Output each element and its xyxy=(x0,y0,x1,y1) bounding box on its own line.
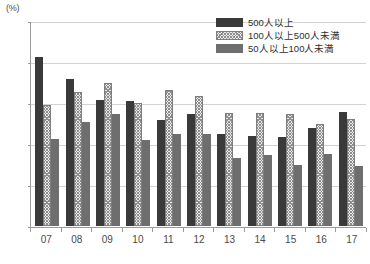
x-axis-tick-mark xyxy=(213,228,214,232)
legend: 500人以上100人以上500人未満50人以上100人未満 xyxy=(216,17,340,54)
x-axis-tick-mark xyxy=(152,228,153,232)
bar-12-series-1 xyxy=(187,114,195,226)
bar-group-09 xyxy=(93,22,123,226)
x-axis-tick-label-13: 13 xyxy=(214,234,245,245)
bar-15-series-1 xyxy=(278,137,286,226)
x-axis-tick-mark xyxy=(91,228,92,232)
x-axis-tick-mark xyxy=(274,228,275,232)
x-axis-tick-label-12: 12 xyxy=(184,234,215,245)
x-axis-tick-label-17: 17 xyxy=(336,234,367,245)
legend-label-2: 100人以上500人未満 xyxy=(248,30,340,41)
bar-14-series-1 xyxy=(248,136,256,226)
bar-group-11 xyxy=(153,22,183,226)
bar-08-series-3 xyxy=(82,122,90,226)
bar-11-series-2 xyxy=(165,90,173,226)
legend-swatch-3 xyxy=(216,44,243,53)
bar-10-series-1 xyxy=(126,101,134,226)
bar-chart: (%) 657075808590 0708091011121314151617 … xyxy=(0,0,370,264)
x-axis-tick-label-14: 14 xyxy=(245,234,276,245)
legend-swatch-2 xyxy=(216,31,243,40)
x-axis-tick-mark xyxy=(244,228,245,232)
bar-17-series-2 xyxy=(347,119,355,226)
bar-12-series-3 xyxy=(203,134,211,226)
y-axis-tick-mark xyxy=(28,186,31,187)
bar-14-series-3 xyxy=(264,155,272,226)
legend-item-2[interactable]: 100人以上500人未満 xyxy=(216,30,340,41)
bar-11-series-1 xyxy=(157,120,165,226)
bar-09-series-3 xyxy=(112,114,120,226)
legend-item-3[interactable]: 50人以上100人未満 xyxy=(216,43,340,54)
bar-07-series-3 xyxy=(51,139,59,226)
bar-08-series-2 xyxy=(74,92,82,226)
bar-10-series-3 xyxy=(142,140,150,226)
x-axis-tick-mark xyxy=(305,228,306,232)
bar-09-series-2 xyxy=(104,83,112,227)
x-axis-tick-label-10: 10 xyxy=(123,234,154,245)
bar-group-08 xyxy=(62,22,92,226)
y-axis-tick-mark xyxy=(28,104,31,105)
bar-group-17 xyxy=(336,22,366,226)
bar-17-series-3 xyxy=(355,166,363,226)
bar-15-series-2 xyxy=(286,114,294,226)
bar-13-series-1 xyxy=(217,134,225,226)
x-axis-tick-label-15: 15 xyxy=(275,234,306,245)
x-axis-tick-marks xyxy=(30,228,366,233)
bar-15-series-3 xyxy=(294,165,302,226)
bar-14-series-2 xyxy=(256,113,264,226)
bar-13-series-2 xyxy=(225,113,233,226)
x-axis-tick-mark xyxy=(366,228,367,232)
bar-16-series-3 xyxy=(324,154,332,226)
bar-13-series-3 xyxy=(233,158,241,226)
bar-07-series-1 xyxy=(35,57,43,226)
y-axis-tick-mark xyxy=(28,22,31,23)
legend-swatch-1 xyxy=(216,18,243,27)
bar-group-12 xyxy=(184,22,214,226)
x-axis-tick-mark xyxy=(183,228,184,232)
x-axis-tick-mark xyxy=(61,228,62,232)
bar-16-series-1 xyxy=(308,128,316,226)
bar-group-07 xyxy=(32,22,62,226)
bar-12-series-2 xyxy=(195,96,203,226)
y-axis-unit-label: (%) xyxy=(6,3,19,13)
x-axis-tick-label-16: 16 xyxy=(306,234,337,245)
y-axis-tick-mark xyxy=(28,145,31,146)
bar-group-10 xyxy=(123,22,153,226)
legend-item-1[interactable]: 500人以上 xyxy=(216,17,340,28)
x-axis-tick-mark xyxy=(122,228,123,232)
x-axis-tick-mark xyxy=(30,228,31,232)
bar-11-series-3 xyxy=(173,134,181,226)
bar-09-series-1 xyxy=(96,100,104,226)
legend-label-3: 50人以上100人未満 xyxy=(248,43,334,54)
legend-label-1: 500人以上 xyxy=(248,17,294,28)
x-axis-tick-mark xyxy=(335,228,336,232)
bar-17-series-1 xyxy=(339,112,347,226)
x-axis-tick-label-07: 07 xyxy=(31,234,62,245)
x-axis-tick-label-09: 09 xyxy=(92,234,123,245)
x-axis-tick-label-11: 11 xyxy=(153,234,184,245)
y-axis-tick-mark xyxy=(28,63,31,64)
bar-10-series-2 xyxy=(134,103,142,226)
bar-08-series-1 xyxy=(66,79,74,226)
bar-16-series-2 xyxy=(316,124,324,226)
bar-07-series-2 xyxy=(43,105,51,226)
x-axis-tick-label-08: 08 xyxy=(62,234,93,245)
x-axis-labels: 0708091011121314151617 xyxy=(31,234,367,245)
